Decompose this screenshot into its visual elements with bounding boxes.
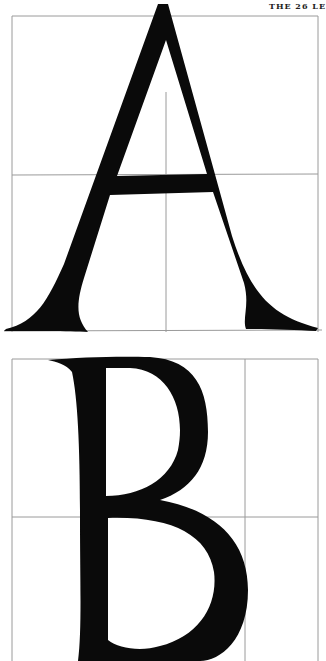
letter-b-plate xyxy=(0,340,326,661)
letter-b-figure xyxy=(0,340,326,661)
glyph-a xyxy=(4,4,318,332)
construction-grid-a xyxy=(4,16,322,332)
glyph-b xyxy=(48,357,248,661)
letter-a-plate xyxy=(0,0,326,340)
letter-a-figure xyxy=(0,0,326,340)
